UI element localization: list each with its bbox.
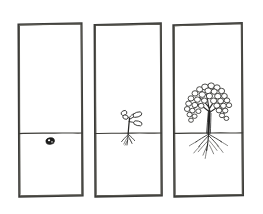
plant-growth-stages-diagram [0, 0, 263, 214]
diagram-canvas [0, 0, 263, 214]
panel-3-frame [173, 23, 243, 197]
panel-2-frame [95, 23, 162, 196]
tree-trunk [207, 111, 211, 134]
seedling-stage-panel [95, 23, 162, 196]
mature-tree-stage-panel [173, 23, 243, 197]
tree-root-system [189, 133, 227, 158]
panel-1-frame [19, 23, 83, 197]
seedling-plant [120, 110, 142, 146]
seed [45, 137, 55, 145]
mature-tree [184, 83, 231, 158]
seed-stage-panel [19, 23, 83, 197]
seedling-roots [122, 133, 135, 145]
panel-1-soil-line [19, 133, 83, 134]
